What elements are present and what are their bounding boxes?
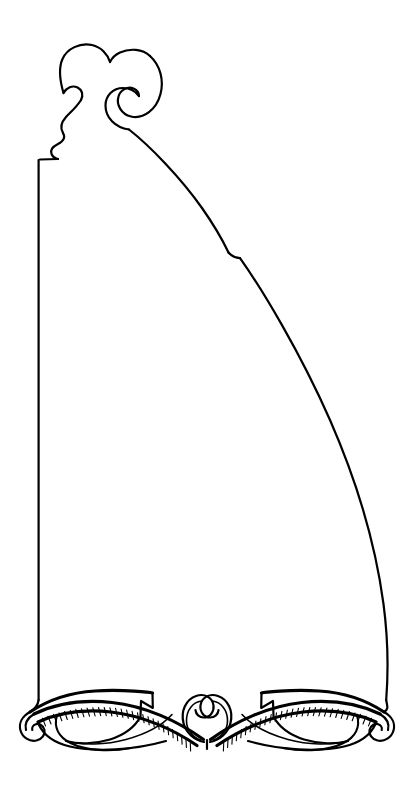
harp-drawing [0, 0, 414, 806]
artboard: Ornamental Harp Outline Line drawing of … [0, 0, 414, 806]
